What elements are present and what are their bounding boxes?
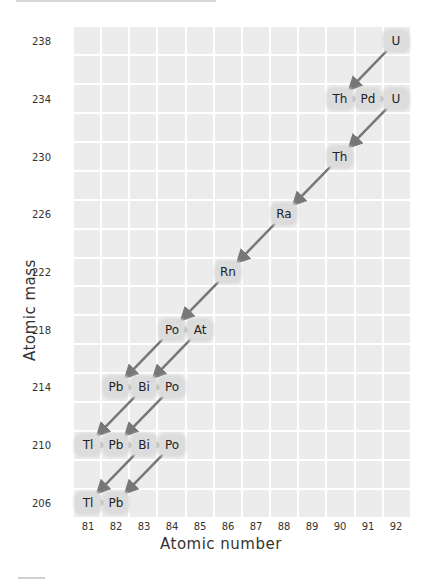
- y-tick-label: 238: [32, 36, 66, 47]
- x-tick-label: 87: [242, 521, 270, 532]
- x-tick-label: 88: [270, 521, 298, 532]
- grid-cell: [384, 259, 410, 286]
- grid-cell: [102, 287, 128, 314]
- grid-cell: [215, 461, 241, 488]
- grid-cell: [102, 114, 128, 141]
- grid-cell: [215, 287, 241, 314]
- grid-cell: [384, 201, 410, 228]
- grid-cell: [243, 345, 269, 372]
- grid-cell: [299, 56, 325, 83]
- isotope-node: U: [384, 89, 408, 109]
- grid-cell: [271, 316, 297, 343]
- grid-cell: [327, 345, 353, 372]
- grid-cell: [243, 85, 269, 112]
- grid-cell: [158, 461, 184, 488]
- grid-cell: [102, 403, 128, 430]
- grid-cell: [158, 287, 184, 314]
- grid-cell: [271, 461, 297, 488]
- grid-cell: [356, 201, 382, 228]
- grid-cell: [187, 143, 213, 170]
- grid-cell: [271, 490, 297, 517]
- grid-cell: [102, 172, 128, 199]
- grid-cell: [271, 85, 297, 112]
- grid-cell: [356, 287, 382, 314]
- grid-cell: [271, 56, 297, 83]
- grid-cell: [130, 201, 156, 228]
- y-tick-label: 206: [32, 497, 66, 508]
- grid-cell: [356, 143, 382, 170]
- grid-cell: [102, 56, 128, 83]
- grid-cell: [130, 461, 156, 488]
- grid-cell: [356, 172, 382, 199]
- top-rule: [16, 0, 216, 2]
- grid-cell: [384, 316, 410, 343]
- grid-cell: [187, 27, 213, 54]
- grid-cell: [130, 259, 156, 286]
- grid-cell: [271, 114, 297, 141]
- grid-cell: [130, 85, 156, 112]
- grid-cell: [271, 403, 297, 430]
- grid-cell: [130, 316, 156, 343]
- grid-cell: [271, 345, 297, 372]
- grid-cell: [243, 316, 269, 343]
- grid-cell: [243, 403, 269, 430]
- grid-cell: [327, 490, 353, 517]
- grid-cell: [74, 114, 100, 141]
- grid-cell: [215, 316, 241, 343]
- grid-cell: [158, 114, 184, 141]
- grid-cell: [215, 230, 241, 257]
- grid-cell: [243, 259, 269, 286]
- grid-cell: [271, 432, 297, 459]
- grid-cell: [215, 172, 241, 199]
- grid-cell: [384, 143, 410, 170]
- grid-cell: [356, 259, 382, 286]
- grid-cell: [384, 403, 410, 430]
- y-tick-label: 234: [32, 94, 66, 105]
- grid-cell: [243, 201, 269, 228]
- grid-cell: [158, 490, 184, 517]
- grid-cell: [74, 316, 100, 343]
- grid-cell: [299, 259, 325, 286]
- grid-cell: [102, 461, 128, 488]
- y-axis-label: Atomic mass: [21, 259, 39, 361]
- grid-cell: [243, 461, 269, 488]
- grid-cell: [299, 172, 325, 199]
- grid-cell: [102, 316, 128, 343]
- grid-cell: [130, 143, 156, 170]
- grid-cell: [74, 287, 100, 314]
- grid-cell: [158, 345, 184, 372]
- grid-cell: [243, 432, 269, 459]
- isotope-node: Ra: [272, 204, 296, 224]
- grid-cell: [384, 172, 410, 199]
- grid-cell: [356, 27, 382, 54]
- grid-cell: [271, 230, 297, 257]
- grid-cell: [243, 287, 269, 314]
- grid-cell: [130, 345, 156, 372]
- grid-cell: [187, 403, 213, 430]
- grid-cell: [74, 230, 100, 257]
- grid-cell: [130, 287, 156, 314]
- grid-cell: [327, 259, 353, 286]
- x-tick-label: 84: [158, 521, 186, 532]
- grid-cell: [215, 27, 241, 54]
- grid-cell: [299, 490, 325, 517]
- grid-cell: [215, 490, 241, 517]
- grid-cell: [243, 56, 269, 83]
- grid-cell: [243, 27, 269, 54]
- grid-cell: [74, 27, 100, 54]
- grid-cell: [187, 432, 213, 459]
- grid-cell: [384, 432, 410, 459]
- x-tick-label: 85: [186, 521, 214, 532]
- grid-cell: [215, 432, 241, 459]
- x-tick-label: 89: [298, 521, 326, 532]
- isotope-node: Po: [160, 377, 184, 397]
- grid-cell: [356, 316, 382, 343]
- grid-cell: [384, 230, 410, 257]
- grid-cell: [187, 345, 213, 372]
- grid-cell: [130, 114, 156, 141]
- y-tick-label: 210: [32, 439, 66, 450]
- grid-cell: [187, 172, 213, 199]
- isotope-node: Po: [160, 435, 184, 455]
- grid-cell: [158, 143, 184, 170]
- grid-cell: [215, 143, 241, 170]
